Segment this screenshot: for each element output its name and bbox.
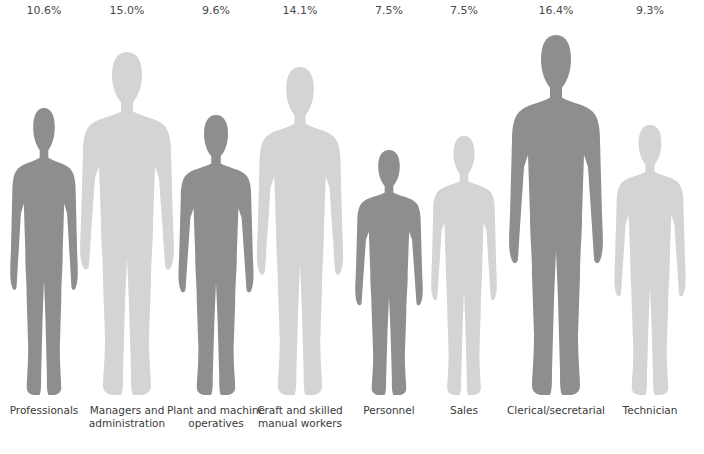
person-silhouette-icon — [612, 125, 688, 395]
category-column: 9.3% Technician — [606, 0, 694, 454]
percentage-label: 14.1% — [256, 4, 344, 17]
percentage-label: 9.3% — [606, 4, 694, 17]
person-silhouette-icon — [77, 52, 177, 395]
percentage-label: 10.6% — [0, 4, 88, 17]
person-silhouette-icon — [176, 115, 256, 395]
person-silhouette-icon — [254, 67, 346, 395]
person-silhouette-icon — [8, 108, 80, 395]
person-silhouette-icon — [353, 150, 425, 395]
category-column: 7.5% Sales — [420, 0, 508, 454]
percentage-label: 16.4% — [512, 4, 600, 17]
category-label: Clerical/secretarial — [502, 404, 610, 417]
percentage-label: 9.6% — [172, 4, 260, 17]
category-column: 9.6% Plant and machine operatives — [172, 0, 260, 454]
percentage-label: 7.5% — [420, 4, 508, 17]
category-label: Technician — [596, 404, 704, 417]
category-column: 16.4% Clerical/secretarial — [512, 0, 600, 454]
category-column: 15.0% Managers and administration — [83, 0, 171, 454]
person-silhouette-icon — [506, 35, 606, 395]
person-silhouette-icon — [429, 136, 499, 395]
category-column: 10.6% Professionals — [0, 0, 88, 454]
percentage-label: 15.0% — [83, 4, 171, 17]
category-column: 14.1% Craft and skilled manual workers — [256, 0, 344, 454]
